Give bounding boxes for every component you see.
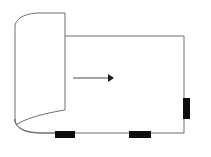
side-tab-right-marker bbox=[183, 98, 190, 119]
technical-line-drawing bbox=[0, 0, 211, 157]
figure-canvas: Curled sheet assembly diagram Line drawi… bbox=[0, 0, 211, 157]
bottom-tab-left-marker bbox=[55, 131, 75, 138]
bottom-tab-right-marker bbox=[129, 131, 151, 138]
